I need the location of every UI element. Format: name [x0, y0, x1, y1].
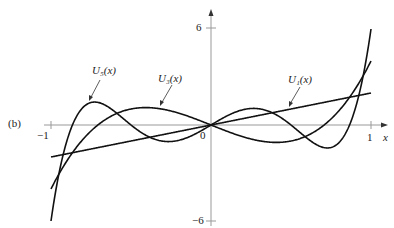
u1-label: U₁(x) — [288, 73, 312, 85]
u3-pointer-arrowhead-icon — [160, 100, 164, 106]
x-axis-arrow-icon — [381, 123, 388, 128]
chebyshev-plot — [0, 0, 394, 228]
u1-pointer-arrow — [290, 87, 300, 104]
panel-label: (b) — [8, 117, 21, 129]
y-tick-label-6: 6 — [196, 21, 202, 33]
x-axis-label: x — [383, 131, 388, 143]
u5-label: U₅(x) — [92, 64, 116, 76]
x-tick-label-0: 0 — [200, 129, 206, 141]
u3-pointer-arrow — [161, 85, 172, 104]
x-tick-label-1: 1 — [367, 131, 373, 143]
u5-pointer-arrow — [90, 80, 100, 99]
y-tick-label-minus6: −6 — [192, 214, 204, 226]
x-tick-label-minus1: −1 — [37, 129, 49, 141]
u3-label: U₃(x) — [158, 72, 182, 84]
y-axis-arrow-icon — [209, 9, 214, 16]
u5-pointer-arrowhead-icon — [89, 95, 93, 101]
